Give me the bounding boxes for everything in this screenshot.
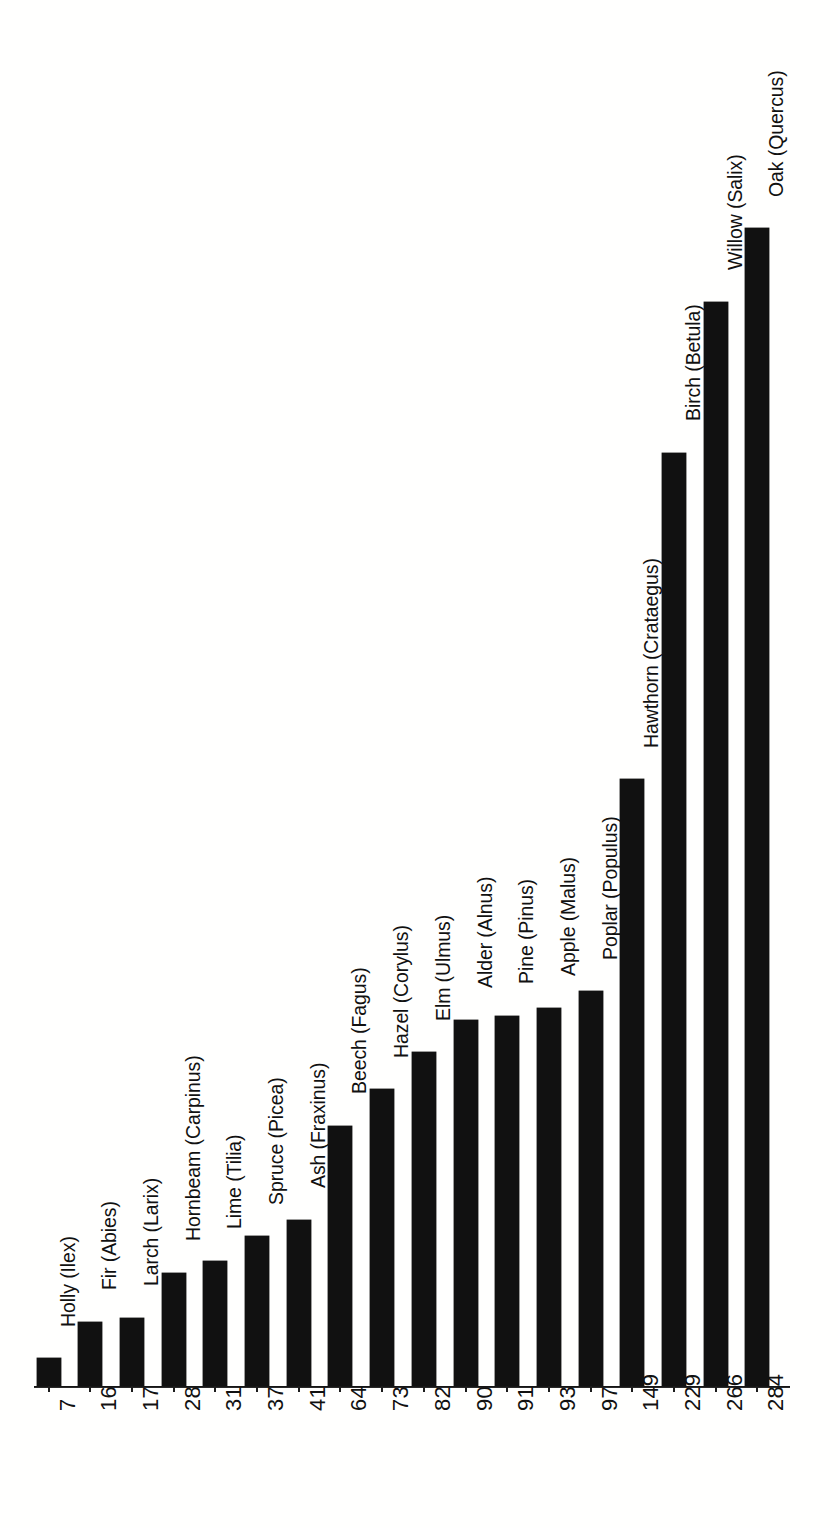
value-label: 97 — [599, 1386, 621, 1411]
bar — [78, 1322, 102, 1387]
category-label: Lime (Tilia) — [225, 1135, 245, 1230]
bar-group: Ash (Fraxinus) — [287, 0, 311, 1387]
bar-group: Fir (Abies) — [78, 0, 102, 1387]
bar-group: Hornbeam (Carpinus) — [162, 0, 186, 1387]
bar-chart-figure: Holly (Ilex)Fir (Abies)Larch (Larix)Horn… — [0, 0, 838, 1528]
axis-tick — [256, 1386, 258, 1392]
value-label: 31 — [223, 1386, 245, 1411]
bar-group: Poplar (Populus) — [579, 0, 603, 1387]
value-label: 82 — [432, 1386, 454, 1411]
bar — [162, 1273, 186, 1387]
axis-tick — [214, 1386, 216, 1392]
bar — [745, 228, 769, 1387]
bar-group: Alder (Alnus) — [454, 0, 478, 1387]
axis-tick — [173, 1386, 175, 1392]
axis-tick — [506, 1386, 508, 1392]
axis-tick — [548, 1386, 550, 1392]
value-label: 64 — [348, 1386, 370, 1411]
category-label: Holly (Ilex) — [58, 1236, 78, 1327]
category-label: Beech (Fagus) — [350, 968, 370, 1095]
bar-group: Hazel (Corylus) — [370, 0, 394, 1387]
bar-group: Larch (Larix) — [120, 0, 144, 1387]
axis-tick — [673, 1386, 675, 1392]
value-label: 28 — [182, 1386, 204, 1411]
category-label: Poplar (Populus) — [600, 816, 620, 960]
value-label: 149 — [640, 1374, 662, 1411]
bar — [120, 1318, 144, 1387]
bar-group: Holly (Ilex) — [37, 0, 61, 1387]
bar — [203, 1261, 227, 1387]
axis-tick — [715, 1386, 717, 1392]
value-label: 37 — [265, 1386, 287, 1411]
value-label: 41 — [307, 1386, 329, 1411]
category-label: Apple (Malus) — [559, 857, 579, 976]
bar — [704, 302, 728, 1387]
value-label: 7 — [57, 1399, 79, 1411]
category-label: Hornbeam (Carpinus) — [183, 1056, 203, 1242]
axis-tick — [423, 1386, 425, 1392]
value-label: 229 — [682, 1374, 704, 1411]
bar — [537, 1008, 561, 1387]
bar-group: Apple (Malus) — [537, 0, 561, 1387]
bar — [579, 991, 603, 1387]
category-label: Elm (Ulmus) — [434, 915, 454, 1021]
category-label: Willow (Salix) — [725, 155, 745, 271]
value-label: 266 — [724, 1374, 746, 1411]
bar — [620, 779, 644, 1387]
axis-tick — [339, 1386, 341, 1392]
bar-group: Elm (Ulmus) — [412, 0, 436, 1387]
category-label: Ash (Fraxinus) — [308, 1063, 328, 1188]
axis-tick — [631, 1386, 633, 1392]
bar — [495, 1016, 519, 1387]
category-label: Pine (Pinus) — [517, 879, 537, 984]
axis-tick — [465, 1386, 467, 1392]
bar — [287, 1220, 311, 1387]
category-label: Fir (Abies) — [100, 1201, 120, 1290]
plot-area: Holly (Ilex)Fir (Abies)Larch (Larix)Horn… — [0, 0, 838, 1387]
bar — [328, 1126, 352, 1387]
bar — [662, 453, 686, 1387]
category-label: Spruce (Picea) — [267, 1077, 287, 1205]
axis-tick — [131, 1386, 133, 1392]
value-label: 16 — [98, 1386, 120, 1411]
bar-group: Lime (Tilia) — [203, 0, 227, 1387]
axis-tick — [381, 1386, 383, 1392]
category-label: Oak (Quercus) — [767, 70, 787, 197]
category-label: Alder (Alnus) — [475, 877, 495, 988]
bar — [412, 1052, 436, 1387]
value-label: 90 — [474, 1386, 496, 1411]
bar — [454, 1020, 478, 1387]
axis-tick — [590, 1386, 592, 1392]
value-label: 73 — [390, 1386, 412, 1411]
axis-tick — [89, 1386, 91, 1392]
axis-tick — [298, 1386, 300, 1392]
bar-group: Birch (Betula) — [662, 0, 686, 1387]
category-label: Hawthorn (Crataegus) — [642, 558, 662, 748]
bar-group: Beech (Fagus) — [328, 0, 352, 1387]
value-label: 17 — [140, 1386, 162, 1411]
bar-group: Spruce (Picea) — [245, 0, 269, 1387]
axis-tick — [756, 1386, 758, 1392]
category-label: Larch (Larix) — [142, 1178, 162, 1286]
bar-group: Oak (Quercus) — [745, 0, 769, 1387]
category-label: Birch (Betula) — [684, 304, 704, 421]
bar-group: Pine (Pinus) — [495, 0, 519, 1387]
bar — [370, 1089, 394, 1387]
bar-group: Hawthorn (Crataegus) — [620, 0, 644, 1387]
bar — [37, 1358, 61, 1387]
value-label: 284 — [765, 1374, 787, 1411]
value-label: 91 — [515, 1386, 537, 1411]
value-label: 93 — [557, 1386, 579, 1411]
bar — [245, 1236, 269, 1387]
axis-tick — [48, 1386, 50, 1392]
bar-group: Willow (Salix) — [704, 0, 728, 1387]
category-label: Hazel (Corylus) — [392, 925, 412, 1058]
